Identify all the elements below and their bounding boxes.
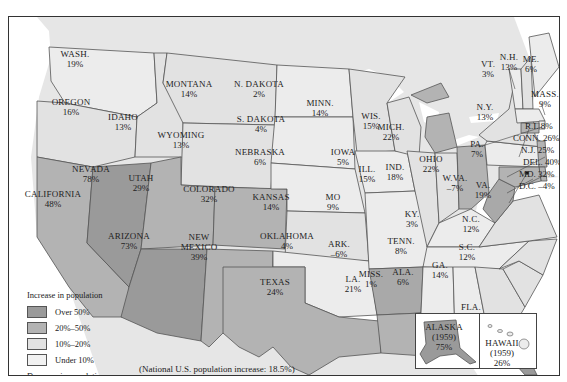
- label-del: DEL. 40%: [523, 157, 560, 167]
- label-ga: GA.14%: [432, 260, 449, 280]
- label-ark: ARK.–6%: [328, 239, 350, 259]
- label-oklahoma: OKLAHOMA4%: [260, 231, 314, 251]
- label-minn: MINN.14%: [306, 98, 333, 118]
- label-ala: ALA.6%: [392, 267, 414, 287]
- label-colorado: COLORADO32%: [183, 184, 235, 204]
- legend-swatch: [27, 306, 47, 318]
- label-n-dakota: N. DAKOTA2%: [234, 79, 284, 99]
- label-wva: W.VA.–7%: [442, 173, 467, 193]
- legend-increase-header: Increase in population: [27, 290, 105, 300]
- label-montana: MONTANA14%: [166, 79, 213, 99]
- label-nebraska: NEBRASKA6%: [235, 147, 285, 167]
- label-conn: CONN. 26%: [513, 133, 560, 143]
- label-miss: MISS.1%: [359, 269, 383, 289]
- label-va: VA.19%: [475, 180, 492, 200]
- label-new-mexico: NEWMEXICO39%: [181, 232, 218, 262]
- label-idaho: IDAHO13%: [108, 112, 138, 132]
- alaska-inset: ALASKA(1959)75%: [415, 313, 481, 369]
- label-nh: N.H.13%: [500, 52, 518, 72]
- legend-swatch: [27, 322, 47, 334]
- hawaii-inset: HAWAII(1959)26%: [479, 313, 537, 369]
- legend-decrease-header: Decrease in population: [27, 371, 105, 376]
- label-hawaii: HAWAII(1959)26%: [485, 338, 518, 368]
- label-iowa: IOWA5%: [331, 147, 355, 167]
- label-arizona: ARIZONA73%: [108, 231, 150, 251]
- label-alaska: ALASKA(1959)75%: [425, 322, 463, 352]
- label-dc: D.C. –4%: [519, 181, 555, 191]
- label-me: ME.6%: [523, 54, 539, 74]
- label-wyoming: WYOMING13%: [158, 130, 205, 150]
- national-increase-note: (National U.S. population increase: 18.5…: [139, 364, 295, 374]
- label-mich: MICH.22%: [378, 122, 405, 142]
- label-s-dakota: S. DAKOTA4%: [237, 114, 286, 134]
- label-utah: UTAH29%: [128, 173, 153, 193]
- label-nc: N.C.12%: [462, 214, 480, 234]
- legend-item: Over 50%: [27, 304, 105, 320]
- legend: Increase in population Over 50% 20%–50% …: [27, 287, 105, 376]
- state-hawaii[interactable]: [519, 339, 529, 349]
- label-mo: MO9%: [326, 192, 341, 212]
- legend-item: 20%–50%: [27, 320, 105, 336]
- label-ill: ILL.15%: [358, 164, 375, 184]
- label-oregon: OREGON16%: [52, 97, 91, 117]
- label-ri: R.I. 8%: [525, 121, 553, 131]
- label-ky: KY.3%: [405, 209, 420, 229]
- label-wash: WASH.19%: [61, 49, 90, 69]
- label-md: MD. 32%: [519, 169, 555, 179]
- label-ind: IND.18%: [385, 162, 404, 182]
- label-ny: N.Y.13%: [476, 102, 493, 122]
- label-sc: S.C.12%: [459, 242, 476, 262]
- legend-item: 10%–20%: [27, 336, 105, 352]
- legend-swatch: [27, 338, 47, 350]
- label-texas: TEXAS24%: [260, 277, 290, 297]
- legend-swatch: [27, 354, 47, 366]
- label-tenn: TENN.8%: [387, 236, 414, 256]
- label-vt: VT.3%: [481, 59, 495, 79]
- label-kansas: KANSAS14%: [252, 192, 289, 212]
- label-nevada: NEVADA78%: [72, 164, 110, 184]
- map-frame: WASH.19% OREGON16% IDAHO13% MONTANA14% W…: [8, 16, 560, 376]
- label-nj: N.J. 25%: [521, 145, 554, 155]
- legend-item: Under 10%: [27, 352, 105, 368]
- label-mass: MASS.9%: [531, 89, 559, 109]
- label-california: CALIFORNIA48%: [25, 189, 82, 209]
- label-ohio: OHIO22%: [419, 154, 442, 174]
- label-pa: PA.7%: [470, 139, 484, 159]
